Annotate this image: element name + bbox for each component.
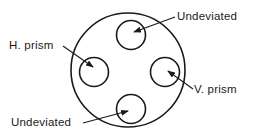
label-v-prism: V. prism xyxy=(194,84,237,96)
zone-circle-bottom xyxy=(117,95,146,124)
prism-diagram: Undeviated H. prism V. prism Undeviated xyxy=(0,0,262,136)
label-h-prism: H. prism xyxy=(9,40,53,52)
zone-circle-top xyxy=(117,21,146,50)
zone-circle-left xyxy=(80,58,109,87)
outer-lens-circle xyxy=(71,13,185,127)
leader-arrow-right xyxy=(168,71,193,89)
leader-arrow-left xyxy=(63,46,93,67)
zone-circle-right xyxy=(151,58,180,87)
label-top-undeviated: Undeviated xyxy=(177,11,237,23)
label-bottom-undeviated: Undeviated xyxy=(11,117,71,129)
